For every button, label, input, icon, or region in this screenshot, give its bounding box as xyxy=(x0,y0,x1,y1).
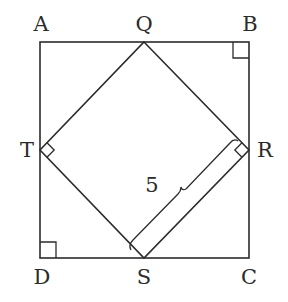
inner-square-qrst xyxy=(40,42,249,258)
vertex-label-t: T xyxy=(20,138,34,162)
vertex-label-a: A xyxy=(32,12,49,36)
measurement-label-rs: 5 xyxy=(145,173,158,197)
vertex-label-s: S xyxy=(137,265,151,289)
right-angle-marker-b xyxy=(233,42,249,58)
vertex-label-q: Q xyxy=(135,12,152,36)
right-angle-marker-d xyxy=(40,242,56,258)
vertex-label-r: R xyxy=(257,138,274,162)
right-angle-marker-t xyxy=(47,143,54,157)
vertex-label-d: D xyxy=(34,265,51,289)
vertex-label-c: C xyxy=(241,265,257,289)
right-angle-marker-r xyxy=(235,143,242,157)
outer-square-abcd xyxy=(40,42,249,258)
geometry-diagram: 5 A Q B T R D S C xyxy=(0,0,288,302)
vertex-label-b: B xyxy=(242,12,257,36)
